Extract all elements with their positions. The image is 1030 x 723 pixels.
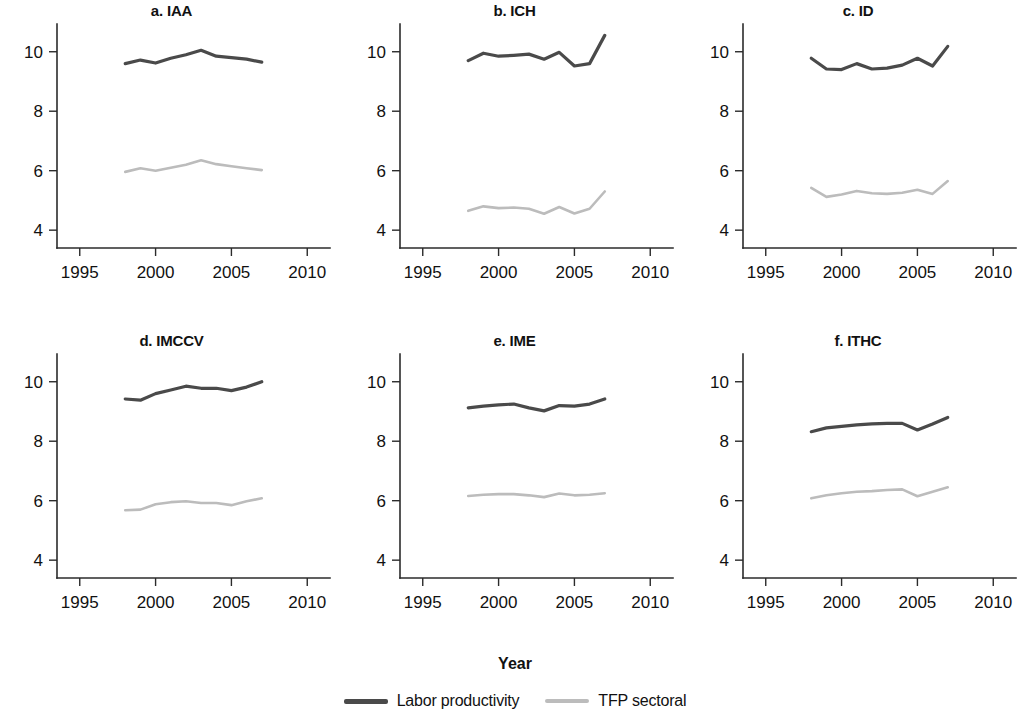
x-tick-label: 2005: [556, 263, 594, 282]
y-tick-label: 8: [34, 432, 43, 451]
y-tick-label: 6: [377, 162, 386, 181]
legend-item: Labor productivity: [344, 692, 520, 710]
y-tick-label: 8: [720, 432, 729, 451]
y-tick-label: 8: [377, 102, 386, 121]
legend-swatch: [545, 699, 589, 703]
y-tick-label: 6: [34, 162, 43, 181]
y-tick-label: 10: [367, 43, 386, 62]
y-tick-label: 6: [720, 162, 729, 181]
x-tick-label: 1995: [61, 263, 99, 282]
y-tick-label: 8: [34, 102, 43, 121]
y-tick-label: 10: [24, 373, 43, 392]
x-tick-label: 2005: [213, 593, 251, 612]
plot-area: 468101995200020052010: [343, 330, 686, 660]
x-tick-label: 2010: [631, 593, 669, 612]
x-tick-label: 2000: [823, 593, 861, 612]
chart-legend: Labor productivityTFP sectoral: [0, 692, 1030, 710]
x-axis-label: Year: [0, 655, 1030, 673]
x-tick-label: 2010: [631, 263, 669, 282]
x-tick-label: 2005: [213, 263, 251, 282]
x-tick-label: 2000: [137, 263, 175, 282]
chart-panel: c. ID468101995200020052010: [686, 0, 1030, 330]
legend-label: TFP sectoral: [598, 692, 686, 710]
x-tick-label: 1995: [404, 593, 442, 612]
x-tick-label: 1995: [747, 593, 785, 612]
figure-panel-grid: a. IAA468101995200020052010b. ICH4681019…: [0, 0, 1030, 723]
plot-area: 468101995200020052010: [0, 330, 343, 660]
x-tick-label: 2010: [288, 263, 326, 282]
x-tick-label: 2000: [480, 593, 518, 612]
x-tick-label: 1995: [747, 263, 785, 282]
y-tick-label: 4: [720, 551, 729, 570]
y-tick-label: 6: [720, 492, 729, 511]
plot-area: 468101995200020052010: [343, 0, 686, 330]
x-tick-label: 1995: [404, 263, 442, 282]
legend-label: Labor productivity: [397, 692, 520, 710]
x-tick-label: 2000: [480, 263, 518, 282]
series-line: [811, 417, 948, 431]
y-tick-label: 8: [377, 432, 386, 451]
y-tick-label: 6: [377, 492, 386, 511]
chart-panel: e. IME468101995200020052010: [343, 330, 686, 660]
x-tick-label: 2010: [974, 593, 1012, 612]
series-line: [468, 35, 605, 66]
y-tick-label: 10: [710, 43, 729, 62]
chart-panel: d. IMCCV468101995200020052010: [0, 330, 343, 660]
series-line: [811, 487, 948, 498]
series-line: [125, 498, 262, 510]
y-tick-label: 10: [367, 373, 386, 392]
x-tick-label: 2005: [556, 593, 594, 612]
series-line: [125, 50, 262, 63]
y-tick-label: 4: [720, 221, 729, 240]
y-tick-label: 10: [24, 43, 43, 62]
series-line: [811, 46, 948, 69]
plot-area: 468101995200020052010: [0, 0, 343, 330]
series-line: [811, 181, 948, 197]
series-line: [125, 160, 262, 172]
x-tick-label: 2000: [137, 593, 175, 612]
x-tick-label: 2005: [899, 593, 937, 612]
y-tick-label: 10: [710, 373, 729, 392]
legend-item: TFP sectoral: [545, 692, 686, 710]
plot-area: 468101995200020052010: [686, 330, 1029, 660]
x-tick-label: 2005: [899, 263, 937, 282]
series-line: [468, 192, 605, 214]
y-tick-label: 4: [377, 551, 386, 570]
y-tick-label: 6: [34, 492, 43, 511]
series-line: [125, 382, 262, 400]
chart-panel: a. IAA468101995200020052010: [0, 0, 343, 330]
x-tick-label: 2010: [288, 593, 326, 612]
y-tick-label: 4: [34, 221, 43, 240]
y-tick-label: 4: [34, 551, 43, 570]
x-tick-label: 2000: [823, 263, 861, 282]
x-tick-label: 2010: [974, 263, 1012, 282]
plot-area: 468101995200020052010: [686, 0, 1029, 330]
y-tick-label: 4: [377, 221, 386, 240]
x-tick-label: 1995: [61, 593, 99, 612]
y-tick-label: 8: [720, 102, 729, 121]
chart-panels: a. IAA468101995200020052010b. ICH4681019…: [0, 0, 1030, 660]
chart-panel: f. ITHC468101995200020052010: [686, 330, 1030, 660]
chart-panel: b. ICH468101995200020052010: [343, 0, 686, 330]
series-line: [468, 399, 605, 411]
series-line: [468, 493, 605, 497]
legend-swatch: [344, 699, 388, 704]
